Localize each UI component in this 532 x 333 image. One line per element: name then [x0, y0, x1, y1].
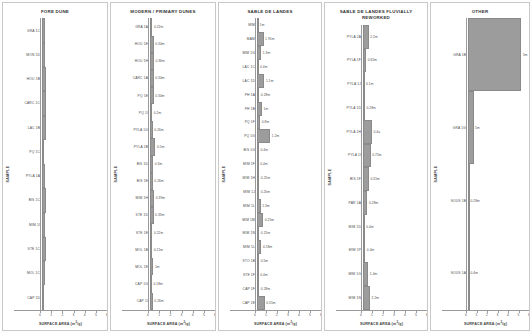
bar-category-label: SOUS 1B [442, 199, 468, 203]
bar-row: MIM 1J0.20m [230, 185, 321, 199]
bar-category-label: MIM 1N [230, 231, 257, 235]
plot-area: SAMPLE GRA 1CMON 1DHOU 1BCARC 1CLAC 1BPQ… [3, 18, 107, 330]
chart-column: MIM1mMAM1.95mMIM 1G1.3mLAC 1C0.4mLAC 1D1… [230, 18, 321, 330]
bar [363, 49, 366, 73]
x-zero-axis-line [40, 18, 41, 309]
bar-row: CAP 1D [14, 285, 107, 309]
bar-track: 5m [468, 91, 529, 164]
bar [150, 53, 154, 70]
bar-value-label: 0.4a [373, 130, 380, 134]
bar-track: 0.34m [150, 36, 215, 53]
bar-value-label: 0.28m [261, 287, 270, 291]
bar [363, 167, 369, 191]
bar-row: HOU 1B [14, 67, 107, 91]
bar [42, 164, 45, 188]
x-axis-tick-label: 6 [528, 313, 530, 317]
bar-row: CAP 1F0.28m [230, 282, 321, 296]
bar-category-label: PYLA 1H [336, 130, 363, 134]
bar-track [42, 91, 107, 115]
bar-row: PYLA 1A [14, 164, 107, 188]
bar-category-label: LAC 1D [230, 79, 257, 83]
y-axis-label: SAMPLE [3, 18, 14, 330]
plot-area: SAMPLE GRA 1B5mGRA 1G5mSOUS 1B0.28mSOUS … [431, 18, 529, 330]
bar-value-label: 0.3m [155, 162, 163, 166]
bar [150, 156, 153, 173]
x-zero-axis-line [361, 25, 362, 310]
bar-track: 0.4m [257, 268, 321, 282]
bar-value-label: 0.22m [154, 231, 163, 235]
bar-row: PAR 1A0.28m [336, 191, 427, 215]
x-axis-tick-label: 4 [298, 313, 300, 317]
bar-row: MIM 1P0.4m [336, 239, 427, 263]
bar-value-label: 0.34m [155, 42, 164, 46]
bar-category-label: CAP 1E [230, 301, 257, 305]
x-axis-tick [107, 311, 108, 313]
bar [150, 173, 153, 190]
chart-column: GRA 1B5mGRA 1G5mSOUS 1B0.28mSOUS 1A0.4m … [442, 18, 529, 330]
bar-track [42, 67, 107, 91]
bar-track: 0.4m [257, 60, 321, 74]
bar-category-label: MOL 1C [14, 271, 42, 275]
bar-track: 0.21m [150, 241, 215, 258]
bar-value-label: 0.20m [261, 190, 270, 194]
bar-value-label: 5m [523, 53, 528, 57]
bar-row: HOU 1H0.36m [122, 53, 215, 70]
bar-row: MIM 1L1.3m [230, 199, 321, 213]
bar-track: 0.26m [150, 293, 215, 310]
bar-row: PYLA 1D0.28m [336, 96, 427, 120]
bar [42, 213, 45, 237]
bar-track: 0.34m [150, 70, 215, 87]
x-axis: 0123456 [442, 310, 529, 320]
bar-track: 0.28m [257, 88, 321, 102]
bar-category-label: CAP 1F [230, 287, 257, 291]
bar-row: SOUS 1A0.4m [442, 237, 529, 310]
bar-track: 0.58m [257, 240, 321, 254]
bar-row: GRA 1A0.22m [122, 18, 215, 35]
bar [257, 143, 259, 157]
bar-track: 0.28m [363, 191, 427, 215]
bar [150, 258, 153, 275]
bar-category-label: GRA 1B [442, 53, 468, 57]
bar-value-label: 0.25m [261, 231, 270, 235]
bar-row: PYLA 1J0.1m [336, 72, 427, 96]
bar-track: 0.25m [257, 213, 321, 227]
bar-value-label: 0.22m [154, 25, 163, 29]
bar-track: 0.34m [150, 87, 215, 104]
bar [150, 104, 152, 121]
panel-sable-de-landes-fluvially-reworked: SABLE DE LANDES FLUVIALLYREWORKED SAMPLE… [324, 2, 428, 331]
bar-category-label: PYLA 2A [336, 35, 363, 39]
bar-row: LAC 1C0.4m [230, 60, 321, 74]
x-axis: 0123456 [14, 310, 107, 320]
bar-value-label: 1.4m [370, 272, 378, 276]
bar-row: MIM1m [230, 18, 321, 32]
bar-value-label: 0.5m [261, 259, 269, 263]
bar-category-label: MIM 1P [336, 248, 363, 252]
bar-track: 1.4m [363, 262, 427, 286]
bar-category-label: MIM 1I [14, 223, 42, 227]
x-axis-tick-label: 6 [426, 313, 428, 317]
bar-category-label: PYLA 1J [336, 82, 363, 86]
x-axis: 0123456 [230, 310, 321, 320]
x-axis-tick-label: 1 [476, 313, 478, 317]
bar-row: MON 1D [14, 43, 107, 67]
bar-category-label: PQ 1I [122, 111, 150, 115]
bar-track: 0.4m [257, 143, 321, 157]
bar-category-label: SOUS 1A [442, 271, 468, 275]
bar [363, 96, 365, 120]
x-zero-axis-line [255, 18, 256, 309]
bar-row: MIM 1D0.4m [336, 215, 427, 239]
bar-value-label: 0.33m [155, 213, 164, 217]
bar-value-label: 0.4m [260, 148, 268, 152]
bar-category-label: PQ 1E [122, 94, 150, 98]
bar-row: MIM 1G1.4m [336, 262, 427, 286]
chart-column: PYLA 2A2.2mPYLA 1F0.65mPYLA 1J0.1mPYLA 1… [336, 25, 427, 330]
bar [257, 32, 264, 46]
bar-value-label: 1m [260, 23, 265, 27]
bar [257, 157, 259, 171]
bar-row: MIM 1G1.3m [230, 46, 321, 60]
bar-row: STE 1C [14, 237, 107, 261]
bar-value-label: 1m [155, 265, 160, 269]
y-axis-label: SAMPLE [219, 18, 230, 330]
bar-value-label: 0.55m [370, 177, 379, 181]
bar-track: 0.4m [468, 237, 529, 310]
